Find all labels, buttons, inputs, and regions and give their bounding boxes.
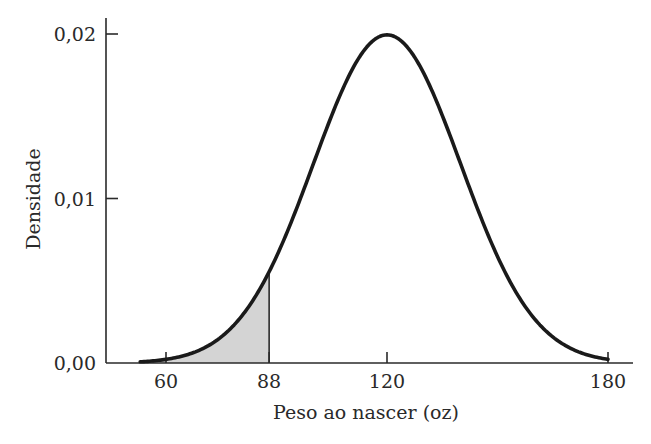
y-axis-ticks: 0,000,010,02 xyxy=(54,23,118,374)
y-axis-title: Densidade xyxy=(22,148,44,249)
x-tick-label: 180 xyxy=(590,370,626,392)
x-tick-label: 88 xyxy=(257,370,281,392)
y-tick-label: 0,02 xyxy=(54,23,96,45)
x-tick-label: 120 xyxy=(369,370,405,392)
axes xyxy=(106,18,633,363)
normal-density-chart: 0,000,010,02 6088120180 Densidade Peso a… xyxy=(0,0,651,444)
x-tick-label: 60 xyxy=(154,370,178,392)
y-tick-label: 0,00 xyxy=(54,352,96,374)
x-axis-title: Peso ao nascer (oz) xyxy=(273,401,459,423)
y-tick-label: 0,01 xyxy=(54,188,96,210)
density-curve xyxy=(140,35,608,362)
